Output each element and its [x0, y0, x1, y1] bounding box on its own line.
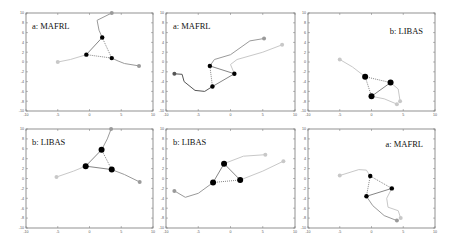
formation-edge: [86, 150, 102, 166]
y-tick-label: -4: [161, 197, 164, 201]
start-point-marker: [137, 64, 141, 68]
x-tick-label: 5: [262, 230, 264, 234]
trajectory: [174, 74, 212, 92]
x-tick-label: 5: [120, 230, 122, 234]
x-tick-label: 0: [371, 113, 373, 117]
y-tick-label: -4: [303, 197, 306, 201]
formation-edge-dotted: [365, 77, 371, 97]
x-tick-label: -10: [163, 113, 168, 117]
y-tick-label: -2: [161, 70, 164, 74]
agent-marker: [369, 93, 375, 99]
start-point-marker: [395, 219, 399, 223]
y-tick-label: -6: [161, 90, 164, 94]
x-tick-label: 10: [151, 230, 155, 234]
x-tick-label: 10: [151, 113, 155, 117]
x-tick-label: 5: [120, 113, 122, 117]
trajectory: [372, 96, 397, 104]
y-tick-label: 10: [160, 11, 164, 15]
agent-marker: [368, 174, 372, 178]
y-tick-label: 2: [162, 167, 164, 171]
y-tick-label: -4: [21, 80, 24, 84]
agent-marker: [237, 177, 243, 183]
formation-edge-dotted: [365, 77, 390, 83]
x-tick-label: 10: [433, 113, 437, 117]
y-tick-label: -6: [303, 207, 306, 211]
start-point-marker: [138, 180, 142, 184]
y-tick-label: 8: [304, 137, 306, 141]
y-tick-label: 8: [22, 21, 24, 25]
agent-marker: [221, 161, 227, 167]
y-tick-label: 4: [304, 157, 306, 161]
y-tick-label: 0: [162, 60, 164, 64]
start-point-marker: [56, 60, 60, 64]
x-tick-label: 5: [402, 230, 404, 234]
x-tick-label: 0: [230, 230, 232, 234]
y-tick-label: -2: [303, 187, 306, 191]
y-tick-label: -4: [21, 197, 24, 201]
agent-marker: [109, 167, 115, 173]
x-tick-label: -5: [197, 230, 200, 234]
y-tick-label: -6: [161, 207, 164, 211]
formation-edge-dotted: [210, 66, 213, 87]
y-tick-label: 4: [22, 157, 24, 161]
agent-marker: [110, 56, 114, 60]
y-tick-label: -8: [303, 216, 306, 220]
y-tick-label: 8: [22, 137, 24, 141]
trajectory: [102, 129, 112, 150]
panel-6: -10-50510-10-8-6-4-20246810 a: MAFRL: [308, 129, 435, 228]
start-point-marker: [395, 102, 399, 106]
y-tick-label: -2: [161, 187, 164, 191]
trajectory: [391, 83, 401, 102]
y-tick-label: 4: [22, 41, 24, 45]
y-tick-label: -10: [19, 226, 24, 230]
y-tick-label: -8: [21, 100, 24, 104]
agent-marker: [362, 74, 368, 80]
formation-edge: [213, 164, 224, 183]
start-point-marker: [338, 174, 342, 178]
start-point-marker: [54, 175, 58, 179]
x-tick-label: 10: [293, 230, 297, 234]
start-point-marker: [399, 216, 403, 220]
formation-edge: [212, 74, 234, 87]
y-tick-label: -4: [303, 80, 306, 84]
x-tick-label: -5: [197, 113, 200, 117]
y-tick-label: 0: [304, 60, 306, 64]
x-tick-label: 10: [293, 113, 297, 117]
y-tick-label: 0: [304, 177, 306, 181]
y-tick-label: -10: [159, 109, 164, 113]
agent-marker: [99, 147, 105, 153]
x-tick-label: -10: [163, 230, 168, 234]
start-point-marker: [172, 189, 176, 193]
trajectory: [97, 13, 112, 38]
y-tick-label: 8: [304, 21, 306, 25]
x-tick-label: 5: [262, 113, 264, 117]
trajectory: [340, 170, 370, 176]
y-tick-label: -6: [303, 90, 306, 94]
y-tick-label: 10: [20, 11, 24, 15]
y-tick-label: -6: [21, 90, 24, 94]
y-tick-label: 6: [304, 31, 306, 35]
start-point-marker: [338, 58, 342, 62]
y-tick-label: -4: [161, 80, 164, 84]
start-point-marker: [263, 153, 267, 157]
agent-marker: [390, 186, 394, 190]
y-tick-label: 2: [304, 167, 306, 171]
y-tick-label: -8: [21, 216, 24, 220]
agent-marker: [100, 35, 104, 39]
formation-edge-dotted: [102, 150, 112, 170]
y-tick-label: 4: [162, 157, 164, 161]
x-tick-label: -10: [305, 113, 310, 117]
agent-marker: [210, 84, 214, 88]
start-point-marker: [110, 11, 114, 15]
y-tick-label: 2: [22, 51, 24, 55]
y-tick-label: -6: [21, 207, 24, 211]
y-tick-label: 2: [304, 51, 306, 55]
panel-1: -10-50510-10-8-6-4-20246810 a: MAFRL: [26, 13, 153, 111]
formation-edge-dotted: [102, 38, 112, 59]
y-tick-label: -8: [161, 216, 164, 220]
trajectory: [57, 166, 86, 177]
y-tick-label: -8: [303, 100, 306, 104]
y-tick-label: 8: [162, 21, 164, 25]
formation-edge: [86, 166, 112, 169]
x-tick-label: -10: [305, 230, 310, 234]
